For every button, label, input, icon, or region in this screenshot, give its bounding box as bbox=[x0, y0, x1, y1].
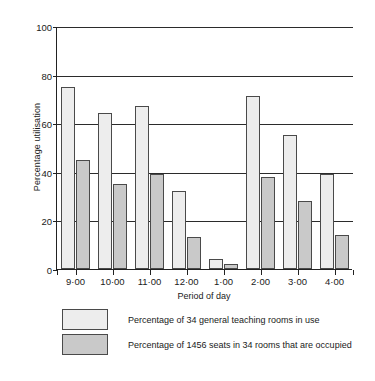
y-tick-label: 80 bbox=[41, 70, 52, 81]
bar bbox=[187, 237, 202, 269]
x-tick-mark bbox=[298, 270, 299, 275]
bar bbox=[61, 87, 76, 269]
y-tick-label: 0 bbox=[47, 265, 52, 276]
bar bbox=[113, 184, 128, 269]
x-tick-mark bbox=[353, 270, 354, 275]
plot-area: 020406080100 9·0010·0011·0012·001·002·00… bbox=[56, 27, 352, 270]
legend-label: Percentage of 34 general teaching rooms … bbox=[128, 315, 320, 325]
x-tick-label: 3·00 bbox=[288, 276, 307, 287]
y-tick-label: 60 bbox=[41, 119, 52, 130]
chart-legend: Percentage of 34 general teaching rooms … bbox=[62, 307, 362, 357]
x-axis-title: Period of day bbox=[56, 291, 352, 301]
y-tick-label: 20 bbox=[41, 216, 52, 227]
x-tick-mark bbox=[335, 270, 336, 275]
x-tick-mark bbox=[113, 270, 114, 275]
bar-group bbox=[57, 26, 353, 269]
bar bbox=[224, 264, 239, 269]
bar bbox=[209, 259, 224, 269]
bar bbox=[298, 201, 313, 269]
bar bbox=[98, 113, 113, 269]
x-tick-mark bbox=[76, 270, 77, 275]
x-tick-label: 1·00 bbox=[214, 276, 233, 287]
bar bbox=[150, 174, 165, 269]
x-tick-mark bbox=[187, 270, 188, 275]
x-tick-mark bbox=[57, 270, 58, 275]
bar bbox=[246, 96, 261, 269]
x-tick-mark bbox=[224, 270, 225, 275]
x-tick-label: 12·00 bbox=[174, 276, 198, 287]
bar bbox=[135, 106, 150, 269]
x-tick-mark bbox=[261, 270, 262, 275]
bar bbox=[320, 174, 335, 269]
y-axis-title: Percentage utilisation bbox=[32, 67, 42, 227]
utilisation-bar-chart: Percentage utilisation 020406080100 9·00… bbox=[0, 0, 375, 381]
legend-swatch bbox=[62, 309, 108, 330]
bar bbox=[261, 177, 276, 269]
bar bbox=[172, 191, 187, 269]
y-tick-label: 40 bbox=[41, 167, 52, 178]
x-tick-label: 4·00 bbox=[325, 276, 344, 287]
bar bbox=[76, 160, 91, 269]
x-tick-label: 10·00 bbox=[100, 276, 124, 287]
y-tick-label: 100 bbox=[36, 22, 52, 33]
bar bbox=[335, 235, 350, 269]
x-tick-label: 2·00 bbox=[251, 276, 270, 287]
x-tick-label: 9·00 bbox=[66, 276, 85, 287]
legend-item: Percentage of 1456 seats in 34 rooms tha… bbox=[62, 332, 362, 357]
legend-item: Percentage of 34 general teaching rooms … bbox=[62, 307, 362, 332]
x-tick-label: 11·00 bbox=[138, 276, 162, 287]
bar bbox=[283, 135, 298, 269]
legend-label: Percentage of 1456 seats in 34 rooms tha… bbox=[128, 340, 352, 350]
x-tick-mark bbox=[150, 270, 151, 275]
legend-swatch bbox=[62, 334, 108, 355]
